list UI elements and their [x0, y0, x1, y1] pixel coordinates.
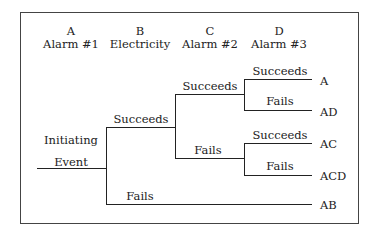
outcome-ab: AB — [320, 199, 337, 212]
c-succeeds-label: Succeeds — [182, 80, 237, 93]
d2-succeeds-line — [244, 143, 312, 144]
d2-fails-label: Fails — [266, 160, 293, 173]
b-succeeds-line — [106, 127, 176, 128]
d1-fails-line — [244, 110, 312, 111]
column-d-label: Alarm #3 — [251, 38, 307, 51]
column-c-label: Alarm #2 — [182, 38, 238, 51]
d2-node-line — [244, 143, 245, 176]
b-node-line — [106, 127, 107, 205]
d1-fails-label: Fails — [266, 95, 293, 108]
d1-node-line — [244, 79, 245, 111]
initiating-event-label-1: Initiating — [44, 134, 98, 147]
c-fails-label: Fails — [194, 144, 221, 157]
b-fails-label: Fails — [126, 190, 153, 203]
column-a-label: Alarm #1 — [43, 38, 99, 51]
d1-succeeds-line — [244, 79, 312, 80]
outcome-ac: AC — [320, 138, 337, 151]
outcome-ad: AD — [320, 106, 338, 119]
column-b-label: Electricity — [110, 38, 170, 51]
outcome-acd: ACD — [320, 170, 346, 183]
b-succeeds-label: Succeeds — [113, 113, 168, 126]
c-fails-line — [175, 158, 245, 159]
c-succeeds-line — [175, 94, 245, 95]
outcome-a: A — [320, 75, 328, 88]
c-node-line — [175, 94, 176, 159]
initiating-event-line — [37, 168, 107, 169]
b-fails-line — [106, 204, 312, 205]
d1-succeeds-label: Succeeds — [252, 65, 307, 78]
d2-succeeds-label: Succeeds — [252, 129, 307, 142]
d2-fails-line — [244, 175, 312, 176]
